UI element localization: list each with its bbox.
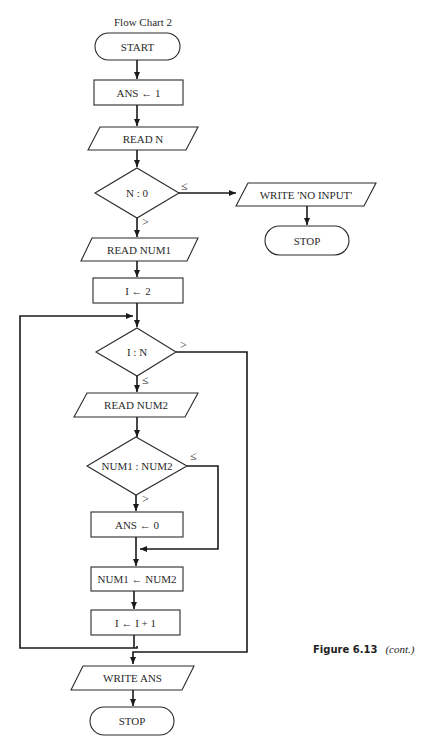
condition-le-label: ≤ — [190, 449, 197, 463]
input-read-n: READ N — [88, 127, 198, 150]
output-write-ans: WRITE ANS — [71, 666, 194, 690]
stop-early-label: STOP — [294, 235, 321, 247]
decision-check-n: N : 0 — [95, 168, 179, 218]
check-i-text: I : N — [127, 346, 147, 358]
decision-check-i: > I : N — [96, 328, 176, 376]
input-read-num2: READ NUM2 — [74, 393, 198, 417]
check-n-label: N : 0 — [126, 187, 149, 199]
figure-caption: Figure 6.13(cont.) — [313, 643, 414, 655]
condition-gt-label: > — [142, 492, 149, 506]
process-increment-i: I ← I + 1 — [91, 610, 180, 635]
read-num2-label: READ NUM2 — [104, 399, 168, 411]
ans-init-label: ANS ← 1 — [116, 87, 160, 99]
no-input-label: WRITE 'NO INPUT' — [260, 189, 353, 201]
condition-le-label: ≤ — [142, 373, 149, 387]
read-n-label: READ N — [123, 133, 164, 145]
condition-le-label: ≤ — [181, 179, 188, 193]
stop-end-label: STOP — [119, 715, 146, 727]
process-ans-zero: ANS ← 0 — [91, 512, 183, 537]
process-ans-init: ANS ← 1 — [94, 80, 183, 105]
condition-gt-label: > — [142, 215, 149, 229]
stop-terminal-end: STOP — [90, 707, 174, 735]
figure-note: (cont.) — [385, 643, 414, 655]
input-read-num1: READ NUM1 — [81, 238, 198, 261]
flowchart-title: Flow Chart 2 — [114, 16, 172, 28]
increment-i-label: I ← I + 1 — [115, 617, 156, 629]
decision-compare: NUM1 : NUM2 — [87, 437, 187, 495]
ans-zero-label: ANS ← 0 — [115, 519, 160, 531]
compare-label: NUM1 : NUM2 — [102, 460, 173, 472]
process-i-init: I ← 2 — [93, 278, 183, 303]
start-label: START — [121, 41, 155, 53]
figure-number: Figure 6.13 — [313, 644, 377, 655]
read-num1-label: READ NUM1 — [107, 244, 171, 256]
output-no-input: WRITE 'NO INPUT' — [236, 183, 376, 206]
assign-num1-label: NUM1 ← NUM2 — [98, 573, 177, 585]
process-assign-num1: NUM1 ← NUM2 — [91, 567, 183, 591]
write-ans-label: WRITE ANS — [103, 672, 162, 684]
i-init-label: I ← 2 — [125, 285, 151, 297]
stop-terminal-early: STOP — [265, 226, 349, 255]
condition-gt-label: > — [180, 338, 187, 352]
start-terminal: START — [95, 33, 180, 60]
